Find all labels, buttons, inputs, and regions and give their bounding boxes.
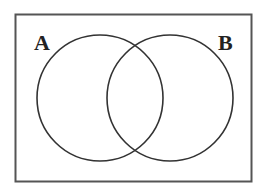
set-b-label: B bbox=[218, 30, 233, 55]
universe-rectangle bbox=[16, 15, 252, 182]
set-a-circle bbox=[37, 35, 163, 161]
venn-diagram: A B bbox=[0, 0, 256, 193]
set-b-circle bbox=[107, 35, 233, 161]
set-a-label: A bbox=[34, 30, 50, 55]
